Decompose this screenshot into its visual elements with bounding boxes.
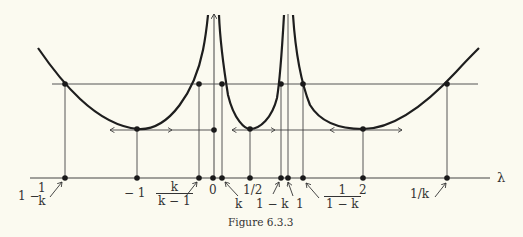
drop-lines <box>65 14 447 178</box>
label-minus-one: − 1 <box>124 187 146 199</box>
curve-middle <box>219 15 284 129</box>
label-one: 1 <box>296 198 304 210</box>
label-zero: 0 <box>209 184 217 196</box>
figure-caption: Figure 6.3.3 <box>228 216 293 228</box>
label-one-minus-k: 1 − k <box>256 198 289 210</box>
label-two: 2 <box>359 184 367 196</box>
label-k: k <box>235 198 242 210</box>
label-k-over-k-minus-one: k k − 1 <box>156 181 193 207</box>
label-inv-one-minus-k: 1 1 − k <box>324 184 361 210</box>
points <box>62 81 450 181</box>
label-one-minus-inv-k-frac: 1 k <box>36 182 48 207</box>
label-inv-k: 1/k <box>410 188 429 200</box>
label-half: 1/2 <box>243 184 262 196</box>
curve-left <box>38 15 208 129</box>
curves <box>38 15 479 129</box>
curve-right <box>293 15 479 129</box>
lambda-label: λ <box>497 171 505 184</box>
